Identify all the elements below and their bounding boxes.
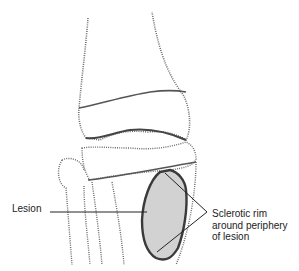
femur — [79, 12, 190, 140]
rim-label-line-1: Sclerotic rim — [212, 208, 299, 220]
rim-label-line-2: around periphery — [212, 220, 299, 232]
sclerotic-rim-label: Sclerotic rim around periphery of lesion — [212, 208, 299, 243]
rim-label-line-3: of lesion — [212, 231, 299, 243]
lesion-label: Lesion — [12, 203, 41, 215]
